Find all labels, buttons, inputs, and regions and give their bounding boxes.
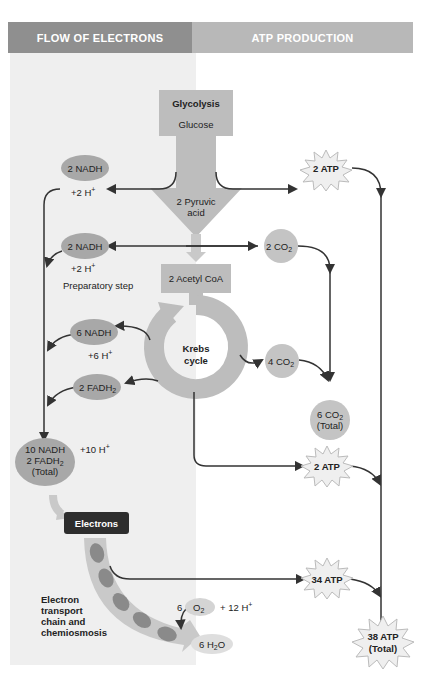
- glycolysis-arrow: [150, 90, 242, 262]
- fadh-text: 2 FADH: [26, 455, 59, 466]
- water-tail-text: O: [218, 639, 225, 650]
- krebs-label-line1: Krebs: [176, 343, 216, 354]
- fadh-text: 2 FADH: [79, 382, 112, 393]
- h-plus-etc: + 12 H+: [220, 602, 252, 613]
- atp-glycolysis-label: 2 ATP: [303, 163, 349, 174]
- h-plus-text: +6 H: [88, 350, 108, 361]
- atp-krebs-label: 2 ATP: [304, 461, 350, 472]
- h-plus-krebs: +6 H+: [88, 350, 112, 361]
- o2-label: O2: [193, 602, 204, 613]
- etc-label-line1: Electron: [41, 594, 79, 605]
- preparatory-step-label: Preparatory step: [63, 280, 133, 291]
- pyruvic-acid-line1: 2 Pyruvic: [166, 196, 226, 207]
- etc-label-line4: chemiosmosis: [41, 627, 107, 638]
- glycolysis-title: Glycolysis: [159, 98, 233, 109]
- water-label: 6 H2O: [199, 639, 225, 650]
- krebs-label-line2: cycle: [176, 355, 216, 366]
- h-plus-glycolysis: +2 H+: [71, 187, 95, 198]
- etc-label-line3: chain and: [41, 616, 85, 627]
- co2-krebs-label: 4 CO2: [268, 356, 294, 367]
- h-plus-total: +10 H+: [80, 444, 110, 455]
- total-co2-line2: (Total): [310, 420, 350, 431]
- water-text: 6 H: [199, 639, 214, 650]
- electrons-label: Electrons: [64, 518, 129, 529]
- co2-text: 4 CO: [268, 356, 290, 367]
- total-atp-line1: 38 ATP: [358, 631, 408, 642]
- co2-prep-label: 2 CO2: [266, 241, 292, 252]
- h-plus-text: +2 H: [71, 263, 91, 274]
- total-co2-line1: 6 CO2: [310, 409, 350, 420]
- h-plus-prep: +2 H+: [71, 263, 95, 274]
- h-plus-text: +10 H: [80, 444, 106, 455]
- nadh-krebs-label: 6 NADH: [70, 327, 118, 338]
- glucose-label: Glucose: [159, 119, 233, 130]
- co2-text: 6 CO: [317, 409, 339, 420]
- etc-label-line2: transport: [41, 605, 83, 616]
- fadh2-krebs-label: 2 FADH2: [79, 382, 116, 393]
- krebs-cycle-ring: [154, 293, 238, 389]
- h-plus-text: +2 H: [71, 187, 91, 198]
- pyruvic-acid-line2: acid: [166, 207, 226, 218]
- o2-coefficient: 6: [177, 602, 182, 613]
- h-plus-text: + 12 H: [220, 602, 248, 613]
- total-nadh-line3: (Total): [17, 466, 73, 477]
- acetyl-coa-label: 2 Acetyl CoA: [161, 273, 231, 284]
- co2-text: 2 CO: [266, 241, 288, 252]
- nadh-glycolysis-label: 2 NADH: [61, 163, 109, 174]
- nadh-prep-label: 2 NADH: [61, 241, 109, 252]
- total-nadh-line2: 2 FADH2: [17, 455, 73, 466]
- atp-etc-label: 34 ATP: [304, 574, 350, 585]
- total-atp-line2: (Total): [358, 643, 408, 654]
- total-nadh-line1: 10 NADH: [17, 444, 73, 455]
